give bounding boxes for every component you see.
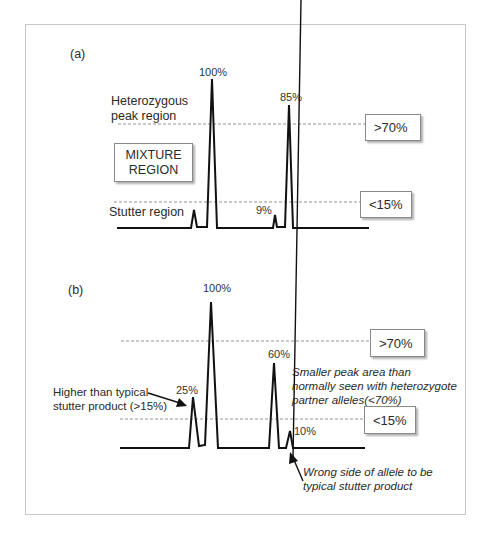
high-stutter-annotation-line1: Higher than typical (53, 386, 148, 399)
peak-label-85-a: 85% (280, 91, 302, 104)
arrow-head-high-stutter (176, 398, 187, 407)
threshold-box-15-b-text: <15% (373, 413, 407, 428)
threshold-box-70-b-text: >70% (379, 336, 413, 351)
peak-label-10-b: 10% (294, 425, 316, 438)
high-stutter-annotation-line2: stutter product (>15%) (53, 400, 167, 413)
heterozygous-label-line2: peak region (111, 109, 176, 123)
electropherogram-diagram (0, 0, 482, 540)
wrong-side-annotation-line1: Wrong side of allele to be (303, 466, 433, 479)
threshold-box-15-a-text: <15% (369, 197, 403, 212)
peak-label-100-b: 100% (203, 282, 231, 295)
peak-label-9-a: 9% (256, 204, 272, 217)
wrong-side-annotation-line2: typical stutter product (303, 480, 412, 493)
stutter-region-label: Stutter region (109, 205, 184, 219)
small-peak-annotation: Smaller peak area than normally seen wit… (292, 366, 457, 407)
peak-label-100-a: 100% (199, 66, 227, 79)
mixture-region-box: MIXTURE REGION (114, 143, 193, 182)
mixture-region-line2: REGION (129, 163, 178, 178)
heterozygous-label-line1: Heterozygous (111, 94, 188, 108)
peak-label-60-b: 60% (268, 348, 290, 361)
panel-a-label: (a) (70, 47, 85, 61)
threshold-box-70-b: >70% (370, 329, 425, 357)
threshold-box-70-a: >70% (365, 114, 421, 141)
peak-label-25-b: 25% (176, 384, 198, 397)
mixture-region-line1: MIXTURE (125, 148, 181, 163)
panel-b-label: (b) (68, 283, 83, 297)
threshold-box-15-a: <15% (360, 191, 412, 218)
threshold-box-70-a-text: >70% (374, 120, 408, 135)
threshold-box-15-b: <15% (364, 406, 416, 434)
